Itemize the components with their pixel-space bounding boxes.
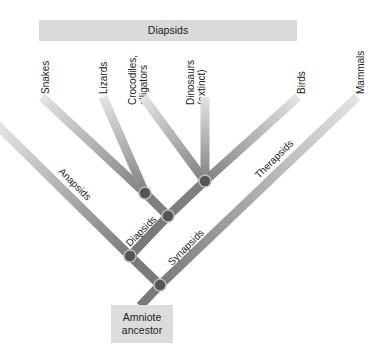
node-dino-bird: [199, 175, 211, 187]
node-reptile-split: [124, 250, 136, 262]
node-amniote-split: [154, 279, 166, 291]
cladogram-tree: Anapsids Diapsids Synapsids Therapsids: [0, 0, 378, 356]
node-snake-lizard: [139, 187, 151, 199]
branch-archosaur-stem: [168, 181, 205, 216]
branch-crocodiles: [143, 97, 205, 181]
branch-anapsids: [0, 124, 130, 256]
amniote-ancestor-box: Amnioteancestor: [111, 305, 173, 343]
node-diapsid-split: [162, 210, 174, 222]
